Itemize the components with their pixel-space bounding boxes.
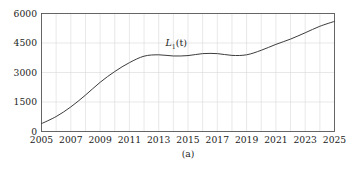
x-tick-label: 2017 (206, 134, 230, 145)
x-tick-label: 2009 (88, 134, 112, 145)
line-chart: 01500300045006000 2005200720092011201320… (0, 0, 357, 169)
caption-label: (a) (182, 148, 195, 159)
x-tick-label: 2015 (176, 134, 200, 145)
x-tick-label: 2023 (294, 134, 318, 145)
x-tick-label: 2021 (264, 134, 287, 145)
x-tick-label: 2013 (147, 134, 171, 145)
x-tick-label: 2025 (323, 134, 347, 145)
y-tick-label: 3000 (14, 67, 38, 78)
curve-label-L1: L1(t) (164, 37, 187, 50)
x-axis-tick-labels: 2005200720092011201320152017201920212023… (30, 134, 347, 145)
figure-caption: (a) (182, 148, 195, 159)
x-tick-label: 2011 (118, 134, 141, 145)
grid-lines (42, 14, 335, 132)
figure-panel-a: 01500300045006000 2005200720092011201320… (0, 0, 357, 169)
y-tick-label: 4500 (14, 37, 38, 48)
curve-annotation: L1(t) (164, 37, 187, 50)
y-tick-label: 1500 (14, 96, 38, 107)
y-tick-label: 6000 (14, 8, 38, 19)
x-tick-label: 2019 (235, 134, 259, 145)
x-tick-label: 2007 (59, 134, 83, 145)
y-axis-tick-labels: 01500300045006000 (14, 8, 38, 137)
x-tick-label: 2005 (30, 134, 54, 145)
